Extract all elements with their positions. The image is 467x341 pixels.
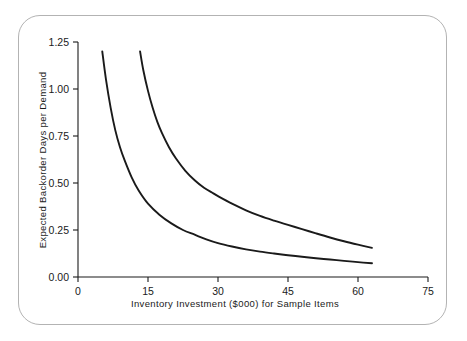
y-tick-label: 0.75 [49, 130, 70, 142]
x-tick-label: 0 [75, 285, 81, 297]
data-curves [102, 51, 372, 263]
x-axis-ticks: 01530456075 [75, 277, 434, 297]
x-tick-label: 45 [282, 285, 294, 297]
y-tick-label: 1.00 [49, 83, 70, 95]
y-tick-label: 0.50 [49, 177, 70, 189]
y-tick-label: 0.00 [49, 271, 70, 283]
chart-plot-area: 0.000.250.500.751.001.25 01530456075 Inv… [0, 0, 467, 341]
curve-lower-curve [102, 51, 372, 263]
figure-root: 0.000.250.500.751.001.25 01530456075 Inv… [0, 0, 467, 341]
x-tick-label: 30 [212, 285, 224, 297]
y-axis-title: Expected Backorder Days per Demand [37, 72, 48, 249]
x-tick-label: 75 [422, 285, 434, 297]
y-tick-label: 1.25 [49, 36, 70, 48]
x-tick-label: 60 [352, 285, 364, 297]
y-tick-label: 0.25 [49, 224, 70, 236]
x-axis-title: Inventory Investment ($000) for Sample I… [131, 298, 339, 309]
curve-upper-curve [140, 51, 372, 247]
x-tick-label: 15 [142, 285, 154, 297]
y-axis-ticks: 0.000.250.500.751.001.25 [49, 36, 78, 283]
